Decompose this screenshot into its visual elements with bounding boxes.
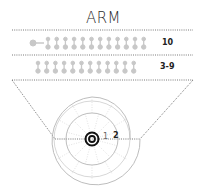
row-label-10: 10 xyxy=(162,38,173,47)
row-10-icons xyxy=(46,37,146,49)
funnel-right xyxy=(140,80,193,139)
target-icon xyxy=(86,133,99,146)
funnel-left xyxy=(12,80,55,139)
connector-icon xyxy=(30,40,44,46)
ring-label-1: 1 xyxy=(103,132,108,141)
outer-spiral xyxy=(52,97,140,185)
row-label-3-9: 3-9 xyxy=(160,62,174,71)
rings xyxy=(52,97,140,185)
arm-diagram xyxy=(0,0,207,187)
row-3-9-icons xyxy=(36,61,136,73)
ring-label-2: 2 xyxy=(113,131,119,140)
